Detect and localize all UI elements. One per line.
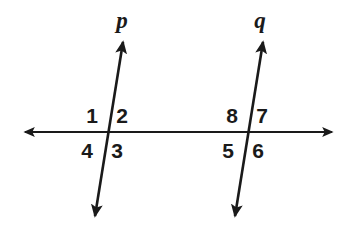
- angle-label-6: 6: [252, 140, 264, 161]
- angle-label-4: 4: [81, 140, 93, 161]
- angle-label-8: 8: [226, 105, 238, 126]
- angle-label-3: 3: [111, 140, 123, 161]
- line-q-stroke: [235, 42, 263, 216]
- line-label-p: p: [116, 9, 128, 32]
- angle-label-1: 1: [86, 105, 98, 126]
- line-label-q: q: [254, 9, 266, 32]
- angle-label-5: 5: [222, 140, 234, 161]
- geometry-diagram: p q 1 2 3 4 5 6 7 8: [0, 0, 355, 227]
- angle-label-2: 2: [116, 105, 128, 126]
- line-p-stroke: [95, 42, 123, 216]
- angle-label-7: 7: [256, 105, 268, 126]
- geometry-canvas: [0, 0, 355, 227]
